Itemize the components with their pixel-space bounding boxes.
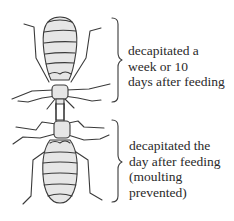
- caption-line: decapitated the: [129, 138, 220, 154]
- top-brace: [112, 18, 122, 102]
- bottom-brace: [112, 120, 122, 202]
- bottom-insect-caption: decapitated the day after feeding (moult…: [129, 138, 220, 200]
- caption-line: prevented): [129, 185, 220, 201]
- caption-line: decapitated a: [128, 43, 225, 59]
- caption-line: week or 10: [128, 59, 225, 75]
- bottom-insect: [13, 121, 109, 204]
- caption-line: day after feeding: [129, 154, 220, 170]
- caption-line: days after feeding: [128, 74, 225, 90]
- top-insect-caption: decapitated a week or 10 days after feed…: [128, 43, 225, 90]
- top-insect: [12, 17, 110, 109]
- diagram: decapitated a week or 10 days after feed…: [0, 0, 234, 221]
- caption-line: (moulting: [129, 169, 220, 185]
